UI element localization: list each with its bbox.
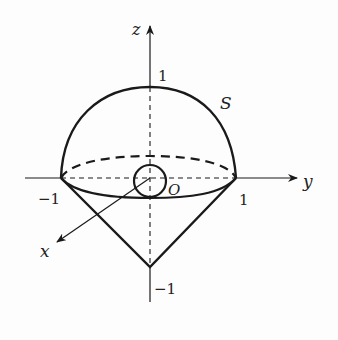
- surface-label: S: [220, 93, 232, 113]
- surface-diagram: z 1 S y O −1 1 x −1: [0, 0, 338, 340]
- x-axis-label: x: [40, 241, 50, 261]
- y-axis-label: y: [302, 171, 313, 191]
- equator-back-dashed: [61, 156, 236, 178]
- z-axis-label: z: [131, 20, 141, 39]
- origin-label: O: [168, 181, 180, 199]
- equator-front: [61, 178, 236, 198]
- y-tick-left: −1: [38, 190, 60, 208]
- y-tick-right: 1: [239, 191, 249, 209]
- z-tick-bottom: −1: [154, 280, 176, 298]
- diagram-canvas: z 1 S y O −1 1 x −1: [0, 0, 338, 340]
- z-tick-top: 1: [158, 67, 168, 85]
